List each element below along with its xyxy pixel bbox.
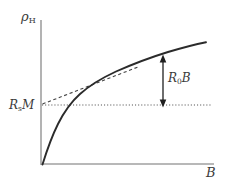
hall-resistivity-figure: ρH B RsM R0B bbox=[0, 0, 231, 186]
y-axis-label: ρH bbox=[21, 10, 36, 23]
y-axis-label-sub: H bbox=[29, 16, 36, 25]
y-axis-label-base: ρ bbox=[21, 9, 29, 24]
chart-canvas bbox=[0, 0, 231, 186]
rsm-base: R bbox=[9, 98, 18, 112]
r0b-gap-arrow bbox=[160, 55, 167, 108]
y-tick-label-rsm: RsM bbox=[9, 99, 34, 111]
r0b-subscript: 0 bbox=[177, 77, 182, 86]
rsm-subscript: s bbox=[18, 104, 22, 113]
hall-resistivity-curve bbox=[43, 42, 207, 164]
x-axis-label: B bbox=[206, 166, 216, 179]
annotation-label-r0b: R0B bbox=[168, 72, 191, 84]
r0b-base: R bbox=[168, 71, 177, 85]
r0b-tail: B bbox=[182, 71, 191, 85]
rsm-tail: M bbox=[22, 98, 34, 112]
